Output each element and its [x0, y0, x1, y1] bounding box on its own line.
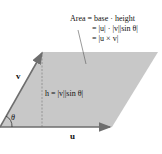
parallelogram-diagram: θ v u h = |v||sin θ| Area = base · heigh…: [0, 0, 162, 154]
area-line-3: = |u × v|: [92, 34, 118, 43]
vector-v-label: v: [16, 71, 21, 81]
area-line-2: = |u| · |v||sin θ|: [92, 24, 138, 33]
angle-label: θ: [11, 113, 15, 122]
height-label: h = |v||sin θ|: [45, 89, 83, 98]
vector-u-label: u: [70, 131, 75, 141]
area-line-1: Area = base · height: [70, 14, 136, 23]
